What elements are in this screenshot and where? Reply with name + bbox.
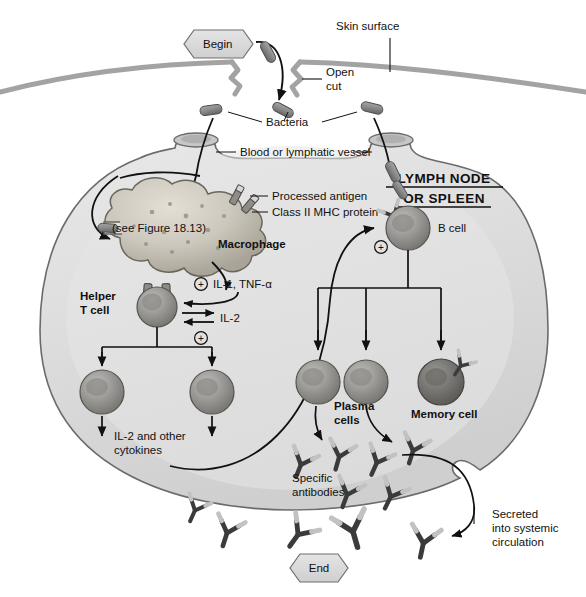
specific-antibodies-line2: antibodies [292, 486, 345, 498]
b-cell-label: B cell [438, 222, 466, 234]
bacteria-leader-right [322, 112, 357, 122]
plasma-cell-left [296, 360, 340, 404]
plus-sign-il2: + [198, 333, 204, 344]
open-cut-right-edge [292, 62, 301, 95]
plasma-cell-left-nucleus [302, 368, 324, 386]
plasma-cell-right [344, 360, 388, 404]
b-cell-nucleus [392, 214, 414, 232]
macrophage-label: Macrophage [218, 238, 286, 250]
vessel-label: Blood or lymphatic vessel [240, 146, 370, 158]
helper-t-cell-label-line1: Helper [80, 290, 116, 302]
bacterium-right-vessel-entry [360, 101, 384, 115]
bacteria-label: Bacteria [266, 116, 309, 128]
bacteria-leader-left [228, 112, 262, 122]
il2-other-cytokines-line2: cytokines [114, 444, 162, 456]
il2-label: IL-2 [220, 312, 240, 324]
t-cell-clone-left [80, 370, 124, 414]
t-clone-left-nucleus [86, 378, 108, 396]
bacterium-left-vessel-entry [199, 104, 222, 116]
t-cell-clone-right [190, 370, 234, 414]
secreted-label-line1: Secreted [492, 508, 538, 520]
skin-surface-left-line [0, 62, 232, 92]
antibody-circulating-2 [278, 513, 320, 555]
plus-sign-il1: + [198, 279, 204, 290]
antibody-circulating-4 [406, 524, 441, 560]
plasma-cells-label-line2: cells [334, 414, 360, 426]
begin-label: Begin [203, 38, 232, 50]
bacterium-above-cut [259, 40, 277, 64]
begin-flow-tag[interactable]: Begin [184, 30, 253, 58]
specific-antibodies-line1: Specific [292, 472, 333, 484]
memory-cell-nucleus [425, 368, 447, 386]
t-clone-right-nucleus [196, 378, 218, 396]
skin-surface-group: Skin surface Open cut [0, 20, 586, 95]
mhc-protein-label: Class II MHC protein [272, 206, 378, 218]
helper-t-cell-label-line2: T cell [80, 304, 109, 316]
open-cut-label-line2: cut [326, 80, 342, 92]
open-cut-left-edge [231, 62, 240, 94]
helper-t-cell-nucleus [142, 294, 162, 311]
end-label: End [309, 562, 329, 574]
il2-other-cytokines-line1: IL-2 and other [114, 430, 186, 442]
open-cut-label-line1: Open [326, 66, 354, 78]
immune-response-diagram: Skin surface Open cut Begin Bacteria [0, 0, 586, 597]
figure-canvas: Skin surface Open cut Begin Bacteria [0, 0, 586, 597]
antibody-circulating-1 [209, 514, 245, 551]
processed-antigen-label: Processed antigen [272, 190, 367, 202]
plasma-cell-right-nucleus [350, 368, 372, 386]
memory-cell-label: Memory cell [411, 408, 477, 420]
see-figure-reference: (see Figure 18.13) [112, 222, 206, 234]
plasma-cells-label-line1: Plasma [334, 400, 375, 412]
skin-surface-label: Skin surface [336, 20, 399, 32]
secreted-label-line3: circulation [492, 536, 544, 548]
secreted-label-line2: into systemic [492, 522, 559, 534]
lymph-node-title-line1: LYMPH NODE [398, 171, 491, 186]
antibody-circulating-3 [332, 509, 374, 552]
plus-sign-b-activation: + [378, 242, 384, 253]
end-flow-tag[interactable]: End [290, 554, 348, 582]
il1-tnf-label: IL-1, TNF-α [213, 278, 272, 290]
lymph-node-title-line2: OR SPLEEN [403, 191, 485, 206]
